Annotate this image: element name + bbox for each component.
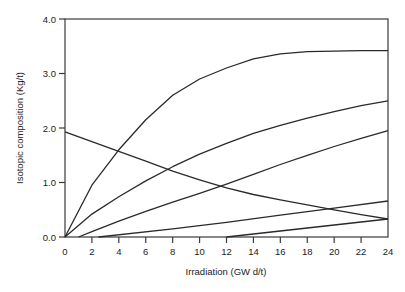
x-axis: 024681012141618202224 bbox=[62, 237, 393, 257]
y-tick-label: 3.0 bbox=[43, 68, 56, 79]
data-lines bbox=[65, 51, 388, 237]
x-tick-label: 18 bbox=[302, 246, 313, 257]
x-tick-label: 10 bbox=[194, 246, 205, 257]
x-tick-label: 6 bbox=[143, 246, 148, 257]
y-tick-label: 4.0 bbox=[43, 14, 56, 25]
x-tick-label: 20 bbox=[329, 246, 340, 257]
x-tick-label: 24 bbox=[383, 246, 394, 257]
y-axis: 0.01.02.03.04.0 bbox=[43, 14, 65, 243]
y-tick-label: 2.0 bbox=[43, 123, 56, 134]
x-tick-label: 4 bbox=[116, 246, 121, 257]
x-tick-label: 2 bbox=[89, 246, 94, 257]
x-tick-label: 16 bbox=[275, 246, 286, 257]
series-line-curve-5 bbox=[227, 219, 389, 237]
chart: 0.01.02.03.04.0 024681012141618202224 Is… bbox=[0, 0, 405, 292]
x-tick-label: 12 bbox=[221, 246, 232, 257]
x-axis-title: Irradiation (GW d/t) bbox=[186, 266, 267, 277]
x-tick-label: 8 bbox=[170, 246, 175, 257]
y-tick-label: 1.0 bbox=[43, 177, 56, 188]
y-tick-label: 0.0 bbox=[43, 232, 56, 243]
x-tick-label: 0 bbox=[62, 246, 67, 257]
series-line-curve-4 bbox=[99, 201, 388, 237]
x-tick-label: 22 bbox=[356, 246, 367, 257]
x-tick-label: 14 bbox=[248, 246, 259, 257]
y-axis-title: Isotopic composition (Kg/t) bbox=[14, 72, 25, 184]
series-line-curve-2 bbox=[65, 101, 388, 237]
